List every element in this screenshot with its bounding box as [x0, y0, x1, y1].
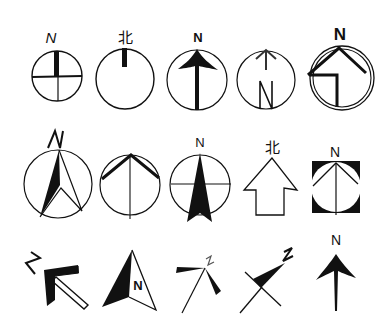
needle-filled-half-icon: [40, 150, 60, 217]
north-symbol-4: [237, 50, 295, 109]
north-label: N: [133, 278, 142, 293]
needle-outline-half-icon: [40, 150, 82, 217]
north-N-glyph-icon: [48, 131, 63, 148]
north-label: N: [331, 232, 341, 248]
outer-circle-icon: [310, 46, 374, 110]
north-label: N: [46, 29, 57, 46]
south-east-blade-icon: [205, 268, 221, 295]
north-label: N: [330, 144, 340, 160]
north-arrow-icon: [316, 254, 356, 311]
north-symbol-13: [176, 256, 221, 313]
chevron-icon: [308, 48, 366, 75]
cross-line-b-icon: [240, 287, 262, 313]
north-label: 北: [118, 29, 133, 47]
north-dart-icon: [187, 153, 212, 222]
north-label: N: [334, 25, 346, 44]
north-symbol-8: N: [170, 135, 231, 222]
block-arrow-icon: [244, 158, 297, 215]
north-symbol-9: 北: [244, 139, 297, 215]
triangle-filled-half-icon: [102, 250, 132, 307]
north-symbol-12: N: [102, 250, 156, 310]
north-label: N: [193, 30, 202, 45]
north-N-glyph-icon: [260, 81, 272, 109]
arrow-shaft-icon: [52, 277, 88, 309]
north-symbol-15: N: [316, 232, 356, 311]
north-symbol-2: 北: [96, 29, 154, 109]
north-symbol-1: N: [32, 29, 82, 101]
north-arrow-icon: [178, 49, 218, 110]
diagonal-line-icon: [182, 268, 205, 313]
north-label: 北: [265, 139, 280, 157]
north-symbol-3: N: [167, 30, 227, 110]
north-symbol-11: [26, 252, 88, 309]
north-symbol-7: [100, 155, 160, 219]
north-bar-icon: [54, 51, 59, 77]
north-N-glyph-icon: [283, 248, 293, 261]
west-blade-icon: [176, 267, 205, 273]
north-label: N: [195, 135, 204, 150]
north-symbol-10: N: [311, 144, 361, 215]
inner-circle-icon: [313, 49, 371, 107]
north-symbol-14: [240, 248, 293, 313]
north-N-glyph-icon: [26, 252, 40, 274]
north-symbol-5: N: [308, 25, 374, 110]
north-tick-icon: [122, 48, 127, 67]
north-N-glyph-icon: [206, 256, 214, 265]
north-symbol-6: [24, 131, 92, 218]
north-arrow-collection: N 北 N N: [0, 0, 384, 330]
